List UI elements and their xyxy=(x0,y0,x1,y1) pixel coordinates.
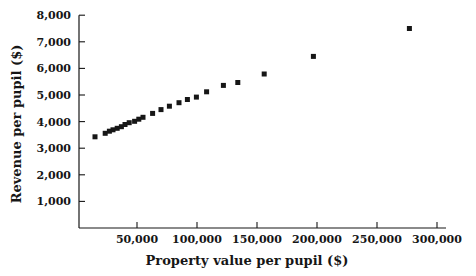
scatter-figure: 1,0002,0003,0004,0005,0006,0007,0008,000… xyxy=(0,0,476,276)
y-tick-label: 5,000 xyxy=(37,89,72,102)
data-point xyxy=(150,111,155,116)
x-tick-label: 250,000 xyxy=(352,233,402,246)
data-point xyxy=(204,89,209,94)
data-point xyxy=(185,97,190,102)
y-tick-label: 1,000 xyxy=(37,195,72,208)
x-tick-label: 300,000 xyxy=(412,233,462,246)
data-point xyxy=(93,134,98,139)
data-point xyxy=(194,95,199,100)
x-tick-label: 100,000 xyxy=(172,233,222,246)
data-point xyxy=(262,72,267,77)
y-tick-label: 3,000 xyxy=(37,142,72,155)
data-point xyxy=(407,26,412,31)
y-tick-label: 6,000 xyxy=(37,62,72,75)
y-tick-label: 4,000 xyxy=(37,116,72,129)
data-point xyxy=(167,104,172,109)
data-point xyxy=(177,100,182,105)
data-point xyxy=(141,115,146,120)
x-tick-label: 50,000 xyxy=(116,233,158,246)
y-tick-label: 8,000 xyxy=(37,9,72,22)
tick-labels-group: 1,0002,0003,0004,0005,0006,0007,0008,000… xyxy=(37,9,463,246)
data-point xyxy=(159,107,164,112)
x-axis-title: Property value per pupil ($) xyxy=(146,253,349,268)
data-point xyxy=(221,83,226,88)
x-tick-label: 200,000 xyxy=(292,233,342,246)
scatter-chart-svg: 1,0002,0003,0004,0005,0006,0007,0008,000… xyxy=(0,0,476,276)
data-points-group xyxy=(93,26,412,139)
data-point xyxy=(127,120,132,125)
y-tick-label: 7,000 xyxy=(37,36,72,49)
y-tick-label: 2,000 xyxy=(37,169,72,182)
x-tick-label: 150,000 xyxy=(232,233,282,246)
y-axis-title: Revenue per pupil ($) xyxy=(9,45,24,204)
data-point xyxy=(311,54,316,59)
data-point xyxy=(235,80,240,85)
